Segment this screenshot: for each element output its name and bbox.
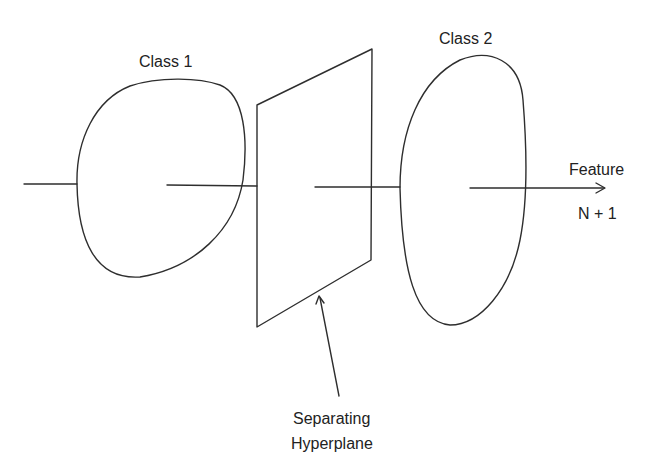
class1-region — [77, 79, 245, 277]
feature-label: Feature — [569, 161, 624, 178]
hyperplane-label-line2: Hyperplane — [291, 435, 373, 452]
class1-label: Class 1 — [139, 53, 192, 70]
class2-label: Class 2 — [439, 30, 492, 47]
separating-hyperplane — [257, 49, 372, 327]
axis-segment-class1-inner — [167, 185, 257, 186]
hyperplane-label-line1: Separating — [293, 410, 370, 427]
hyperplane-pointer-line — [320, 298, 339, 396]
feature-index-label: N + 1 — [578, 205, 617, 222]
class2-region — [400, 56, 526, 325]
diagram-canvas: Class 1 Class 2 Feature N + 1 Separating… — [0, 0, 667, 472]
